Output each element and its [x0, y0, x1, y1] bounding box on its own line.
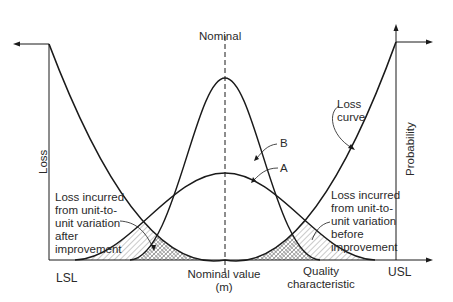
quality-characteristic-label: Quality characteristic — [279, 265, 363, 291]
quality-line2: characteristic — [279, 278, 363, 291]
nominal-value-line2: (m) — [184, 281, 264, 294]
after-line: improvement — [55, 243, 124, 256]
after-line: unit variation — [55, 217, 124, 230]
after-line: from unit-to- — [55, 204, 124, 217]
leader-arrowheads — [151, 144, 355, 251]
before-line: improvement — [331, 241, 400, 254]
curve-b-label: B — [280, 137, 288, 150]
loss-curve-label: Loss curve — [337, 98, 365, 124]
taguchi-loss-diagram — [0, 0, 453, 302]
probability-axis-label: Probability — [404, 122, 417, 176]
nominal-value-label: Nominal value (m) — [184, 268, 264, 294]
before-improvement-annotation: Loss incurred from unit-to- unit variati… — [331, 189, 400, 254]
quality-line1: Quality — [279, 265, 363, 278]
before-line: before — [331, 228, 400, 241]
after-line: Loss incurred — [55, 191, 124, 204]
leader-lines — [120, 106, 352, 248]
loss-axis-label: Loss — [37, 150, 50, 174]
after-line: after — [55, 230, 124, 243]
loss-curve-line2: curve — [337, 111, 365, 124]
usl-label: USL — [388, 266, 411, 279]
before-line: from unit-to- — [331, 202, 400, 215]
nominal-value-line1: Nominal value — [184, 268, 264, 281]
curve-a-label: A — [280, 162, 288, 175]
before-line: Loss incurred — [331, 189, 400, 202]
before-line: unit variation — [331, 215, 400, 228]
lsl-label: LSL — [56, 272, 77, 285]
after-improvement-annotation: Loss incurred from unit-to- unit variati… — [55, 191, 124, 256]
nominal-title: Nominal — [199, 30, 241, 43]
loss-curve-line1: Loss — [337, 98, 365, 111]
